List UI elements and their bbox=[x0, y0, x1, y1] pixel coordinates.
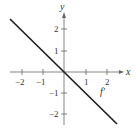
x-tick-label-2: 2 bbox=[105, 77, 110, 87]
x-axis-arrow-icon bbox=[119, 70, 124, 74]
curve-label: f′ bbox=[100, 86, 106, 97]
y-tick-label-neg2: −2 bbox=[49, 109, 59, 119]
y-axis-label: y bbox=[59, 1, 65, 12]
y-tick-label-2: 2 bbox=[54, 24, 59, 34]
x-tick-label-neg2: −2 bbox=[15, 77, 25, 87]
x-tick-label-neg1: −1 bbox=[36, 77, 46, 87]
y-tick-label-1: 1 bbox=[54, 46, 59, 56]
y-axis-arrow-icon bbox=[62, 12, 66, 18]
line-f-prime bbox=[10, 19, 117, 124]
x-tick-label-1: 1 bbox=[84, 77, 89, 87]
x-axis-label: x bbox=[125, 66, 131, 77]
chart: −2 −1 1 2 2 1 −1 −2 x y f′ bbox=[0, 0, 140, 130]
y-tick-label-neg1: −1 bbox=[49, 88, 59, 98]
